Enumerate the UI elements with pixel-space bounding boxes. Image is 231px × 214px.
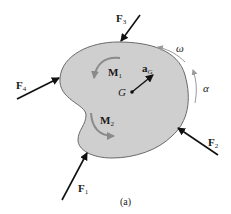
angular-acceleration-label: α bbox=[203, 82, 209, 94]
center-of-mass-label: G bbox=[118, 86, 126, 98]
force-f2-label: F2 bbox=[208, 136, 219, 150]
rigid-body-diagram: F3 F4 F1 F2 M1 M2 G aG ω α (a) bbox=[0, 0, 231, 214]
rigid-body-shape bbox=[60, 42, 188, 158]
figure-caption: (a) bbox=[120, 196, 131, 208]
angular-acceleration-arrow bbox=[193, 70, 196, 103]
force-f3-label: F3 bbox=[116, 12, 127, 26]
force-f1-label: F1 bbox=[78, 182, 89, 196]
force-f4-label: F4 bbox=[16, 79, 27, 93]
angular-velocity-label: ω bbox=[176, 42, 184, 54]
